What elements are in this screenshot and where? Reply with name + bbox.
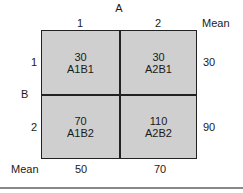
factor-b-level-1: 1 xyxy=(31,56,37,68)
factor-b-label: B xyxy=(21,88,28,100)
factor-b-level-2: 2 xyxy=(31,121,37,133)
column-mean-header: Mean xyxy=(11,163,39,175)
cell-name: A2B2 xyxy=(145,127,172,139)
row-mean-2: 90 xyxy=(203,121,215,133)
column-mean-2: 70 xyxy=(154,163,166,175)
factor-a-label: A xyxy=(115,2,122,14)
cell-a2b1: 30 A2B1 xyxy=(120,31,197,94)
row-mean-1: 30 xyxy=(203,56,215,68)
cell-a1b1: 30 A1B1 xyxy=(42,31,119,94)
cell-name: A2B1 xyxy=(145,63,172,75)
cell-name: A1B1 xyxy=(67,63,94,75)
cell-name: A1B2 xyxy=(67,127,94,139)
bottom-divider xyxy=(0,187,243,189)
cell-a2b2: 110 A2B2 xyxy=(120,95,197,158)
cell-value: 110 xyxy=(150,115,168,127)
factor-a-level-1: 1 xyxy=(77,17,83,29)
cell-value: 70 xyxy=(74,115,86,127)
cell-a1b2: 70 A1B2 xyxy=(42,95,119,158)
factor-a-level-2: 2 xyxy=(155,17,161,29)
row-mean-header: Mean xyxy=(202,17,230,29)
cell-value: 30 xyxy=(74,51,86,63)
cell-value: 30 xyxy=(152,51,164,63)
column-mean-1: 50 xyxy=(75,163,87,175)
design-grid: 30 A1B1 30 A2B1 70 A1B2 110 A2B2 xyxy=(41,30,197,159)
